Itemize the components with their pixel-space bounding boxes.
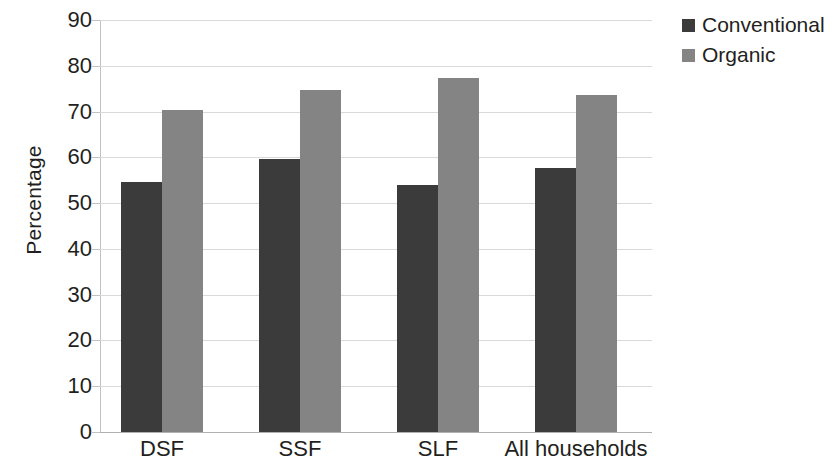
legend-swatch-icon (682, 19, 695, 32)
y-axis-tick-label: 60 (48, 146, 92, 168)
y-axis-tick-mark (92, 112, 100, 113)
legend-label: Organic (702, 43, 776, 67)
x-axis-tick-labels: DSFSSFSLFAll households (100, 436, 652, 464)
bar-chart: Percentage 0102030405060708090 DSFSSFSLF… (0, 0, 836, 464)
chart-legend: ConventionalOrganic (682, 10, 836, 70)
bar-conventional-dsf (121, 182, 162, 432)
y-axis-tick-label: 20 (48, 329, 92, 351)
legend-swatch-icon (682, 49, 695, 62)
y-axis-tick-label: 50 (48, 192, 92, 214)
plot-area (100, 20, 652, 432)
y-axis-tick-mark (92, 66, 100, 67)
y-axis-tick-mark (92, 295, 100, 296)
bar-organic-dsf (162, 110, 203, 432)
y-axis-tick-mark (92, 340, 100, 341)
bar-conventional-slf (397, 185, 438, 432)
y-axis-tick-mark (92, 20, 100, 21)
y-axis-tick-label: 90 (48, 9, 92, 31)
y-axis-tick-mark (92, 203, 100, 204)
bar-organic-all-households (576, 95, 617, 432)
y-axis-tick-label: 40 (48, 238, 92, 260)
gridline (100, 432, 652, 433)
legend-item-organic: Organic (682, 40, 836, 70)
y-axis-tick-mark (92, 249, 100, 250)
bar-conventional-ssf (259, 159, 300, 432)
legend-item-conventional: Conventional (682, 10, 836, 40)
bar-organic-ssf (300, 90, 341, 432)
x-axis-tick-label: All households (466, 436, 686, 462)
y-axis-tick-label: 30 (48, 284, 92, 306)
y-axis-tick-mark (92, 432, 100, 433)
legend-label: Conventional (702, 13, 825, 37)
y-axis-tick-label: 10 (48, 375, 92, 397)
bar-conventional-all-households (535, 168, 576, 432)
y-axis-tick-mark (92, 157, 100, 158)
y-axis-title: Percentage (22, 90, 46, 310)
y-axis-tick-label: 70 (48, 101, 92, 123)
y-axis-tick-label: 80 (48, 55, 92, 77)
y-axis-tick-mark (92, 386, 100, 387)
bar-organic-slf (438, 78, 479, 432)
y-axis-tick-labels: 0102030405060708090 (44, 0, 92, 464)
bars-layer (100, 20, 652, 432)
